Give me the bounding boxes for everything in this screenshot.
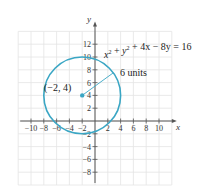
y-tick-label: 8: [87, 66, 91, 75]
y-axis-label: y: [86, 14, 91, 24]
y-tick-label: −8: [82, 168, 91, 177]
y-tick-label: 2: [87, 104, 91, 113]
x-tick-label: −8: [40, 124, 49, 133]
y-axis-arrow-icon: [93, 21, 97, 26]
y-tick-label: 12: [83, 40, 91, 49]
y-tick-label: −6: [82, 155, 91, 164]
x-tick-label: −10: [25, 124, 38, 133]
center-point: [80, 93, 84, 97]
x-tick-label: −6: [52, 124, 61, 133]
x-tick-label: 10: [155, 124, 163, 133]
x-tick-label: 6: [131, 124, 135, 133]
x-axis-label: x: [175, 122, 180, 132]
y-tick-label: 6: [87, 79, 91, 88]
circle-graph: −10−8−6−4−224681012108642−2−4−6−8 x y x2…: [0, 0, 219, 195]
x-tick-label: 8: [144, 124, 148, 133]
y-tick-label: 4: [87, 91, 91, 100]
x-tick-label: 4: [119, 124, 123, 133]
y-tick-label: −4: [82, 143, 91, 152]
center-label: (−2, 4): [44, 82, 71, 94]
radius-label: 6 units: [120, 67, 147, 78]
